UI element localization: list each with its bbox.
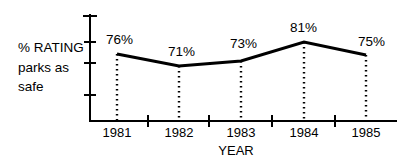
x-axis-tick-label-1985: 1985 xyxy=(352,125,381,140)
value-label-1984: 81% xyxy=(290,20,317,35)
y-axis-label-line-3: safe xyxy=(18,79,44,94)
y-axis-label-line-2: parks as xyxy=(18,60,69,75)
y-axis-label: % RATING parks as safe xyxy=(18,40,84,94)
value-label-1982: 71% xyxy=(168,44,195,59)
y-axis-label-line-1: % RATING xyxy=(18,40,84,55)
x-axis-tick-label-1984: 1984 xyxy=(290,125,319,140)
x-axis-tick-label-1983: 1983 xyxy=(227,125,256,140)
value-label-1981: 76% xyxy=(106,32,133,47)
x-axis-title: YEAR xyxy=(218,143,253,158)
value-label-1983: 73% xyxy=(230,36,257,51)
line-chart: % RATING parks as safe 76% 71% 73% 81% xyxy=(0,0,413,162)
x-axis-tick-label-1982: 1982 xyxy=(165,125,194,140)
x-axis-tick-label-1981: 1981 xyxy=(103,125,132,140)
value-label-1985: 75% xyxy=(358,34,385,49)
chart-container: % RATING parks as safe 76% 71% 73% 81% xyxy=(0,0,413,162)
